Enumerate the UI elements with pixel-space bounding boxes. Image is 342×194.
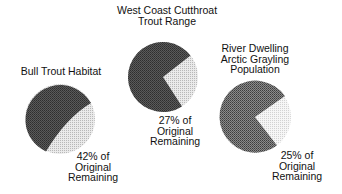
- title-line: Trout Range: [117, 16, 217, 27]
- pie-grayling: [219, 81, 291, 153]
- title-line: Bull Trout Habitat: [21, 66, 102, 77]
- pie-bull-trout: [24, 83, 95, 154]
- title-line: Population: [221, 64, 289, 75]
- pie1-annotation: 42% of Original Remaining: [68, 151, 118, 183]
- note-line: Remaining: [272, 171, 322, 182]
- note-line: Remaining: [68, 172, 118, 183]
- note-line: 27% of: [150, 115, 200, 126]
- pie-chart-figure: Bull Trout Habitat 42% of Original Remai…: [0, 0, 342, 194]
- note-line: 25% of: [272, 150, 322, 161]
- pie2-title: West Coast Cutthroat Trout Range: [117, 5, 217, 26]
- note-line: 42% of: [68, 151, 118, 162]
- pie3-title: River Dwelling Arctic Grayling Populatio…: [221, 43, 289, 75]
- title-line: River Dwelling: [221, 43, 289, 54]
- title-line: West Coast Cutthroat: [117, 5, 217, 16]
- pie3-annotation: 25% of Original Remaining: [272, 150, 322, 182]
- pie2-annotation: 27% of Original Remaining: [150, 115, 200, 147]
- note-line: Remaining: [150, 136, 200, 147]
- pie1-title: Bull Trout Habitat: [21, 66, 102, 77]
- pie-cutthroat: [128, 42, 198, 112]
